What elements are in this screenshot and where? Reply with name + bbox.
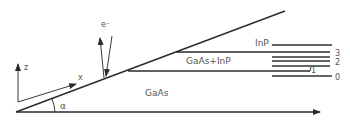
layer-index-0: 0 bbox=[335, 73, 340, 82]
beam-in-arrow bbox=[106, 36, 112, 76]
x-axis-label: x bbox=[78, 73, 83, 82]
angle-arc bbox=[52, 99, 55, 112]
layer-index-1: 1 bbox=[311, 66, 316, 75]
electron-label: e⁻ bbox=[101, 20, 110, 29]
bevel-diagram: α z x e⁻ 3 2 1 0 InP GaAs+InP GaAs bbox=[0, 0, 350, 123]
z-axis-label: z bbox=[24, 63, 28, 72]
layer-index-3: 3 bbox=[335, 49, 340, 58]
angle-label: α bbox=[60, 101, 66, 111]
inp-region-label: InP bbox=[255, 38, 269, 48]
beam-out-arrow bbox=[100, 38, 104, 78]
layer-index-2: 2 bbox=[335, 58, 340, 67]
gaas-region-label: GaAs bbox=[145, 88, 169, 98]
mixed-region-label: GaAs+InP bbox=[186, 56, 231, 66]
